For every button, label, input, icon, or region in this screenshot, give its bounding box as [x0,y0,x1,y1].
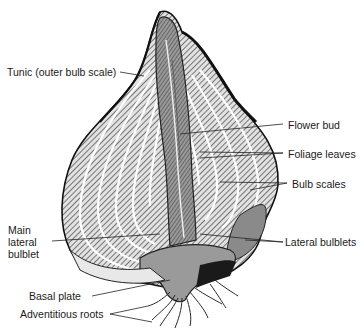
label-main-lateral-bulblet: Main lateral bulblet [8,224,39,260]
label-lateral-bulblets: Lateral bulblets [285,236,356,248]
label-tunic: Tunic (outer bulb scale) [7,66,116,78]
label-adventitious-roots: Adventitious roots [20,308,103,320]
onion-bulb-diagram: Tunic (outer bulb scale) Flower bud Foli… [0,0,364,334]
label-foliage-leaves: Foliage leaves [288,148,356,160]
label-bulb-scales: Bulb scales [292,178,346,190]
label-flower-bud: Flower bud [288,119,340,131]
label-basal-plate: Basal plate [29,290,81,302]
onion-bulb-illustration [0,0,364,334]
